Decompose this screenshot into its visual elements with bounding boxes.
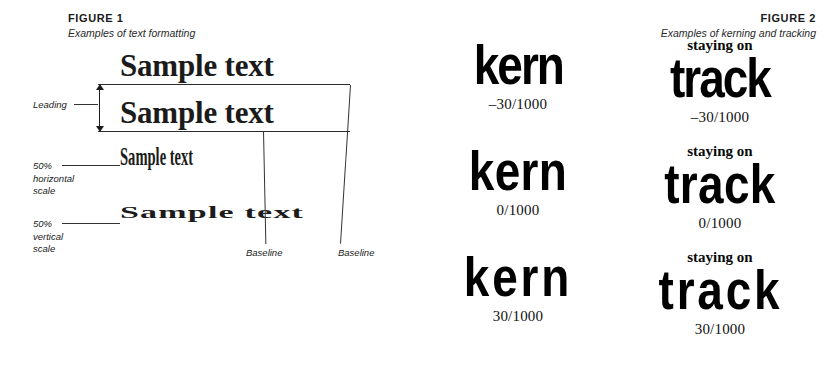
figure-2-title: FIGURE 2: [661, 12, 816, 26]
annotation-vertical-scale-line-2: vertical: [33, 231, 63, 244]
leader-line-baseline-1: [263, 131, 266, 244]
annotation-horizontal-scale-line-3: scale: [33, 185, 74, 198]
annotation-leading: Leading: [33, 99, 67, 112]
annotation-vertical-scale-line-3: scale: [33, 243, 63, 256]
kern-tracking-caption: 0/1000: [497, 202, 540, 219]
figure-1-title: FIGURE 1: [68, 12, 195, 26]
kern-sample-stack: kern: [464, 38, 573, 92]
kern-sample-stack: kern: [452, 250, 584, 304]
track-tracking-caption: –30/1000: [691, 109, 749, 126]
kern-display-word: kern: [469, 144, 567, 198]
kern-display-word: kern: [473, 38, 562, 92]
annotation-vertical-scale-line-1: 50%: [33, 218, 63, 231]
track-sample-cell: staying on track –30/1000: [616, 38, 824, 144]
baseline-rule-bottom: [98, 131, 350, 132]
annotation-baseline-1: Baseline: [246, 247, 282, 258]
track-display-word: track: [664, 157, 775, 211]
track-sample-stack: staying on track: [659, 38, 781, 105]
figure-1: FIGURE 1 Examples of text formatting Sam…: [0, 0, 420, 370]
kern-sample-cell: kern 30/1000: [420, 250, 616, 356]
kern-sample-cell: kern 0/1000: [420, 144, 616, 250]
arrow-head-down-icon: [96, 126, 104, 132]
annotation-vertical-scale: 50% vertical scale: [33, 218, 63, 256]
track-sample-stack: staying on track: [645, 250, 796, 317]
kern-sample-stack: kern: [458, 144, 578, 198]
annotation-horizontal-scale-line-1: 50%: [33, 160, 74, 173]
track-sample-cell: staying on track 0/1000: [616, 144, 824, 250]
arrow-shaft: [99, 88, 100, 128]
kern-tracking-caption: 30/1000: [493, 308, 544, 325]
annotation-baseline-2: Baseline: [338, 247, 374, 258]
track-sample-cell: staying on track 30/1000: [616, 250, 824, 356]
figure-2-heading: FIGURE 2 Examples of kerning and trackin…: [661, 12, 816, 40]
leader-line-baseline-2: [340, 85, 351, 244]
track-display-word: track: [670, 51, 770, 105]
figure-1-heading: FIGURE 1 Examples of text formatting: [68, 12, 195, 40]
sample-text-line-1: Sample text: [120, 50, 274, 81]
figure-page: FIGURE 1 Examples of text formatting Sam…: [0, 0, 824, 370]
annotation-horizontal-scale-line-2: horizontal: [33, 173, 74, 186]
leading-double-arrow-icon: [95, 84, 104, 132]
kern-display-word: kern: [464, 250, 572, 304]
track-tracking-caption: 0/1000: [699, 215, 742, 232]
sample-text-line-2: Sample text: [120, 97, 274, 128]
baseline-rule-top: [98, 84, 350, 85]
track-display-word: track: [658, 263, 782, 317]
track-tracking-caption: 30/1000: [695, 321, 746, 338]
kern-tracking-caption: –30/1000: [489, 96, 547, 113]
sample-text-horizontal-scale: Sample text: [120, 144, 193, 170]
leader-line-vertical-scale: [62, 223, 120, 224]
sample-text-vertical-scale: Sample text: [120, 203, 304, 221]
leader-line-horizontal-scale: [62, 165, 120, 166]
figure-1-subtitle: Examples of text formatting: [68, 27, 195, 40]
kerning-tracking-grid: kern –30/1000 staying on track –30/1000 …: [420, 38, 824, 356]
kern-sample-cell: kern –30/1000: [420, 38, 616, 144]
figure-2: FIGURE 2 Examples of kerning and trackin…: [420, 0, 824, 370]
track-sample-stack: staying on track: [652, 144, 788, 211]
